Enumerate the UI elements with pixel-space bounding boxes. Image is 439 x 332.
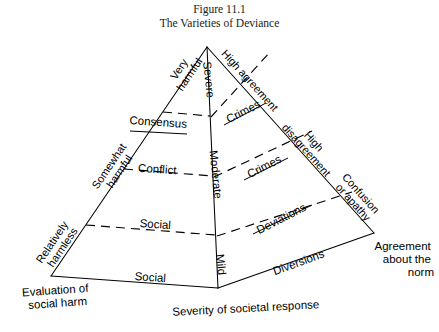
left-tier-conflict: Conflict [138, 162, 178, 177]
left-level-very-harmful-label: Very harmful [164, 49, 204, 93]
left-tier-social-lower-label: Social [134, 270, 166, 284]
right-tier-crimes-lower-label: Crimes [245, 153, 283, 180]
right-tier-crimes-lower: Crimes [244, 153, 288, 180]
axis-label-evaluation-of-social-harm-text: Evaluation of social harm [22, 282, 93, 312]
axis-label-agreement-about-the-norm-text: Agreement about the norm [375, 240, 434, 278]
axis-label-severity-of-societal-response-text: Severity of societal response [172, 298, 319, 318]
right-level-confusion-or-apathy-label: Confusion or apathy [331, 171, 384, 226]
left-level-relatively-harmless-label: Relatively harmless [34, 216, 82, 271]
center-level-severe: Severe [201, 61, 217, 98]
left-tier-social-upper-label: Social [139, 217, 171, 231]
right-tier-deviations-label: Deviations [255, 201, 309, 236]
left-level-somewhat-harmful-label: Somewhat harmful [89, 139, 139, 198]
axis-label-agreement-about-the-norm: Agreement about the norm [375, 240, 434, 278]
center-level-mild: Mild [214, 253, 228, 275]
pyramid-diagram: Severe Moderate Mild Very harmful Somewh… [0, 0, 439, 332]
left-face-divider-1 [163, 112, 210, 116]
right-tier-deviations-underline [253, 205, 312, 234]
axis-label-evaluation-of-social-harm: Evaluation of social harm [22, 282, 93, 312]
center-level-severe-label: Severe [201, 61, 217, 98]
center-level-moderate: Moderate [207, 150, 224, 200]
right-tier-diversions-label: Diversions [271, 247, 326, 277]
left-level-relatively-harmless: Relatively harmless [34, 216, 82, 271]
right-tier-crimes-upper-label: Crimes [224, 98, 262, 125]
axis-label-severity-of-societal-response: Severity of societal response [172, 298, 319, 318]
left-tier-consensus-underline [130, 131, 187, 134]
left-level-somewhat-harmful: Somewhat harmful [89, 139, 139, 198]
left-tier-social-upper: Social [139, 217, 171, 231]
right-level-high-disagreement-label: High disagreement [280, 114, 342, 179]
center-level-moderate-label: Moderate [207, 150, 224, 200]
center-level-mild-label: Mild [214, 253, 228, 275]
right-tier-crimes-upper: Crimes [224, 98, 266, 125]
left-level-very-harmful: Very harmful [164, 49, 204, 93]
right-tier-deviations: Deviations [253, 201, 312, 236]
left-tier-social-lower: Social [134, 270, 166, 284]
right-tier-diversions: Diversions [271, 247, 326, 277]
right-level-high-disagreement: High disagreement [280, 114, 342, 179]
figure-root: Figure 11.1 The Varieties of Deviance Se… [0, 0, 439, 332]
left-tier-consensus-label: Consensus [129, 114, 187, 130]
right-level-confusion-or-apathy: Confusion or apathy [331, 171, 384, 226]
left-tier-conflict-label: Conflict [138, 162, 178, 177]
left-tier-consensus: Consensus [129, 114, 187, 134]
